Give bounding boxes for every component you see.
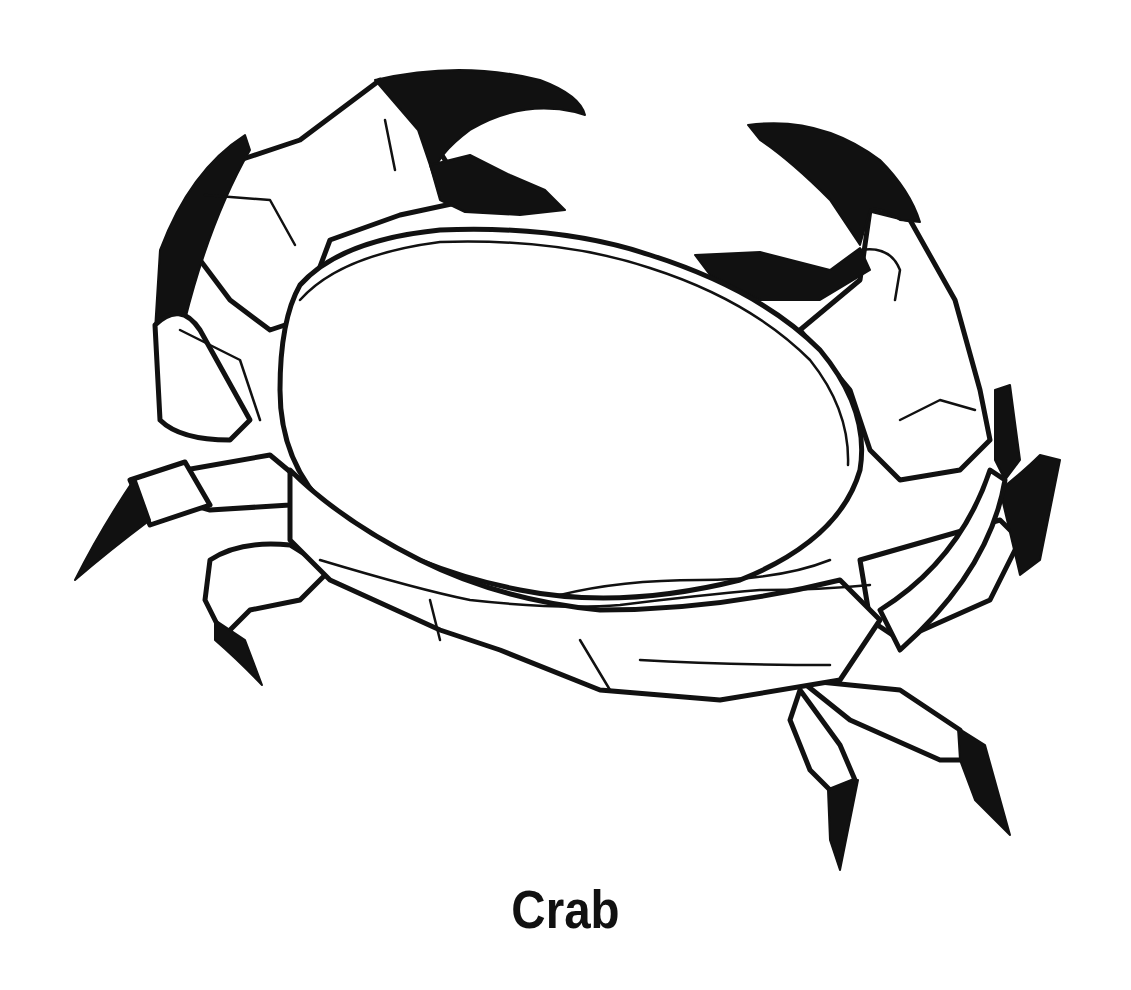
crab-drawing: [0, 0, 1131, 880]
caption-label: Crab: [68, 878, 1063, 940]
crab-illustration: [0, 0, 1131, 880]
